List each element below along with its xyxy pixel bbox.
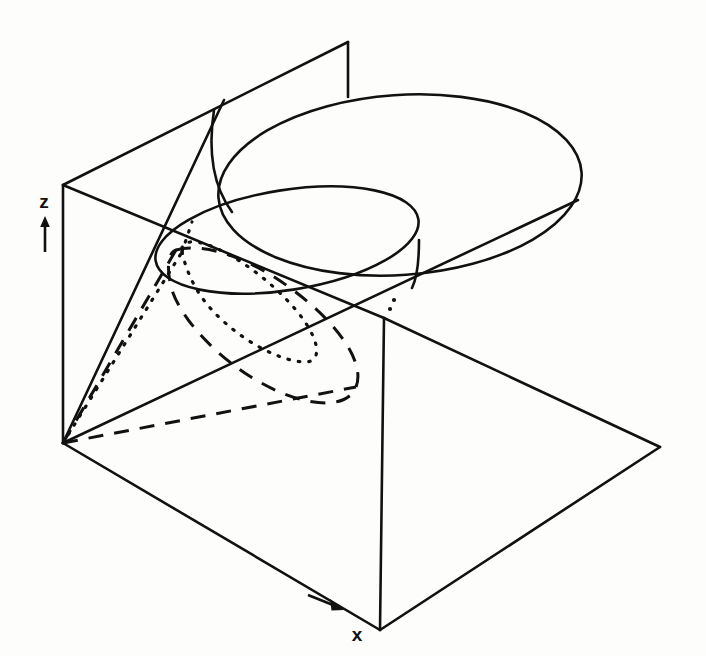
z-axis-label: z (39, 191, 49, 212)
base-plane-edge-front-right (380, 447, 660, 630)
x-axis-label: x (352, 624, 363, 645)
z-axis-arrow-head (40, 216, 50, 227)
base-projection-generator-right (63, 387, 356, 443)
projection-dashed-group (63, 248, 358, 443)
vertical-plane-edge-right-drop (380, 318, 384, 630)
cone (63, 83, 588, 443)
base-plane-edge-back-right (384, 318, 660, 447)
cone-slant-right (63, 200, 578, 443)
base-plane (63, 318, 660, 630)
figure-root: z x (0, 0, 706, 656)
vertical-plane (63, 42, 384, 630)
ellipse-projection-on-vertical-plane (182, 242, 317, 362)
cone-slant-left (63, 100, 224, 443)
geometry-diagram: z x (0, 0, 706, 656)
conic-section-ellipse (148, 170, 426, 310)
cone-wall-right-curve (412, 240, 419, 288)
x-axis-arrow-head (330, 599, 344, 611)
cone-wall-left-curve (211, 110, 232, 212)
intersection-dot-upper (392, 298, 396, 302)
cone-rim-ellipse (212, 83, 588, 288)
intersection-dot-lower (388, 307, 392, 311)
conic-section (148, 170, 426, 310)
z-axis-group: z (39, 191, 50, 252)
